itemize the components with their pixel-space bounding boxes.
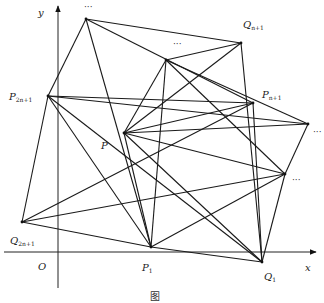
edge-Q_n1-Q_1 — [241, 43, 262, 262]
label-p: P — [101, 141, 108, 151]
lower-right-ellipsis: ··· — [292, 176, 301, 185]
figure-caption: 图 — [150, 288, 160, 303]
edge-set — [22, 19, 308, 262]
label-p-2n-plus-1: P2n+1 — [9, 92, 32, 103]
right-ellipsis: ··· — [313, 128, 322, 137]
label-p-1: P1 — [142, 263, 153, 274]
edge-upper_dots-P — [124, 60, 166, 133]
vertex-lower_right_dots — [284, 173, 287, 176]
vertex-right_dots — [307, 123, 310, 126]
edge-P_n1-Q_2n1 — [22, 103, 253, 222]
vertex-P — [123, 132, 126, 135]
edge-P_2n1-P_1 — [48, 96, 151, 247]
label-y-axis: y — [38, 8, 44, 18]
edge-lower_right_dots-Q_1 — [262, 174, 285, 262]
label-q-1: Q1 — [264, 272, 276, 283]
edge-lower_right_dots-P_1 — [151, 174, 285, 247]
vertex-Q_2n1 — [21, 221, 24, 224]
vertex-top_dots — [85, 18, 88, 21]
edge-right_dots-lower_right_dots — [285, 124, 308, 174]
vertex-Q_1 — [261, 261, 264, 264]
vertex-set — [21, 18, 310, 264]
axes — [4, 6, 316, 288]
label-p-n-plus-1: Pn+1 — [262, 90, 281, 101]
edge-P_2n1-top_dots — [48, 19, 86, 96]
upper-ellipsis: ··· — [173, 40, 182, 49]
label-origin: O — [38, 262, 46, 272]
vertex-upper_dots — [165, 59, 168, 62]
edge-upper_dots-right_dots — [166, 60, 308, 124]
vertex-P_2n1 — [47, 95, 50, 98]
label-x-axis: x — [305, 263, 311, 273]
edge-right_dots-P — [124, 124, 308, 133]
edge-Q_2n1-P_1 — [22, 222, 151, 247]
vertex-Q_n1 — [240, 42, 243, 45]
label-q-2n-plus-1: Q2n+1 — [10, 236, 35, 247]
top-ellipsis: ··· — [84, 3, 93, 12]
label-q-n-plus-1: Qn+1 — [243, 20, 264, 31]
edge-P_2n1-Q_2n1 — [22, 96, 48, 222]
vertex-P_1 — [150, 246, 153, 249]
edge-P-lower_right_dots — [124, 133, 285, 174]
edge-P-P_1 — [124, 133, 151, 247]
vertex-P_n1 — [252, 102, 255, 105]
edge-upper_dots-P_1 — [151, 60, 166, 247]
